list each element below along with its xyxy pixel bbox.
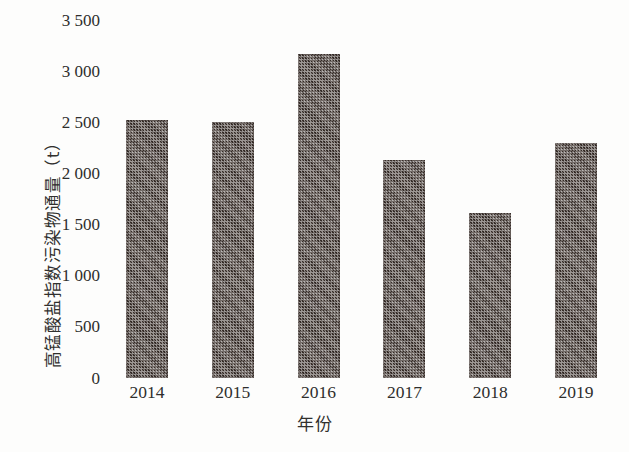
bar bbox=[469, 213, 511, 378]
bar bbox=[555, 143, 597, 378]
x-axis-label: 年份 bbox=[0, 410, 629, 435]
x-tick-label: 2015 bbox=[190, 382, 276, 402]
bar-chart: 高锰酸盐指数污染物通量（t） 3 5003 0002 5002 0001 500… bbox=[0, 0, 629, 452]
y-tick-label: 2 000 bbox=[38, 165, 100, 182]
x-tick-label: 2018 bbox=[447, 382, 533, 402]
y-tick-label: 500 bbox=[38, 318, 100, 335]
y-tick-label: 1 500 bbox=[38, 216, 100, 233]
y-tick-label: 1 000 bbox=[38, 267, 100, 284]
bar bbox=[383, 160, 425, 378]
x-tick-label: 2019 bbox=[533, 382, 619, 402]
y-tick-label: 0 bbox=[38, 370, 100, 387]
x-tick-label: 2014 bbox=[104, 382, 190, 402]
y-tick-label: 2 500 bbox=[38, 114, 100, 131]
y-tick-label: 3 500 bbox=[38, 12, 100, 29]
plot-area bbox=[104, 20, 619, 378]
y-tick-label: 3 000 bbox=[38, 63, 100, 80]
x-axis-tick-labels: 201420152016201720182019 bbox=[104, 382, 619, 408]
y-axis-tick-labels: 3 5003 0002 5002 0001 5001 0005000 bbox=[38, 0, 100, 452]
bar bbox=[298, 54, 340, 378]
bar bbox=[212, 122, 254, 378]
x-tick-label: 2016 bbox=[276, 382, 362, 402]
bar bbox=[126, 120, 168, 378]
x-tick-label: 2017 bbox=[362, 382, 448, 402]
